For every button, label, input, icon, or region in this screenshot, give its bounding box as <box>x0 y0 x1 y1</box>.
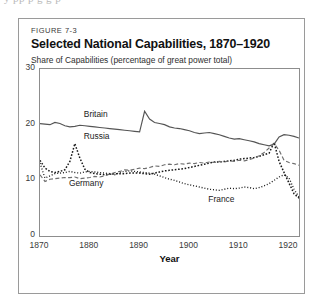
chart-lines-svg <box>40 69 299 236</box>
series-label-france: France <box>208 194 234 204</box>
series-label-britain: Britain <box>84 109 108 119</box>
y-tick-20: 20 <box>13 118 35 128</box>
y-tick-30: 30 <box>13 62 35 72</box>
figure-subtitle: Share of Capabilities (percentage of gre… <box>31 55 232 65</box>
figure-title: Selected National Capabilities, 1870–192… <box>31 37 270 51</box>
series-label-russia: Russia <box>84 131 110 141</box>
figure-number-label: FIGURE 7-3 <box>31 26 77 35</box>
chart-plot-area: 0102030 187018801890190019101920 Britain… <box>39 68 300 252</box>
page-cutoff-text: y pp p g g p <box>0 0 323 14</box>
x-tick-1920: 1920 <box>271 240 305 250</box>
x-axis-title: Year <box>39 253 300 264</box>
cutoff-text-glyphs: y pp p g g p <box>4 0 61 4</box>
series-label-germany: Germany <box>69 178 103 188</box>
x-tick-1870: 1870 <box>22 240 56 250</box>
chart-frame <box>39 68 300 237</box>
x-tick-1890: 1890 <box>122 240 156 250</box>
y-tick-10: 10 <box>13 173 35 183</box>
figure-container: FIGURE 7-3 Selected National Capabilitie… <box>18 18 305 294</box>
series-line-britain <box>40 111 299 146</box>
x-tick-1880: 1880 <box>72 240 106 250</box>
x-tick-1910: 1910 <box>221 240 255 250</box>
series-line-russia <box>40 142 299 198</box>
y-tick-0: 0 <box>13 229 35 239</box>
series-line-germany <box>40 144 299 182</box>
x-tick-1900: 1900 <box>171 240 205 250</box>
